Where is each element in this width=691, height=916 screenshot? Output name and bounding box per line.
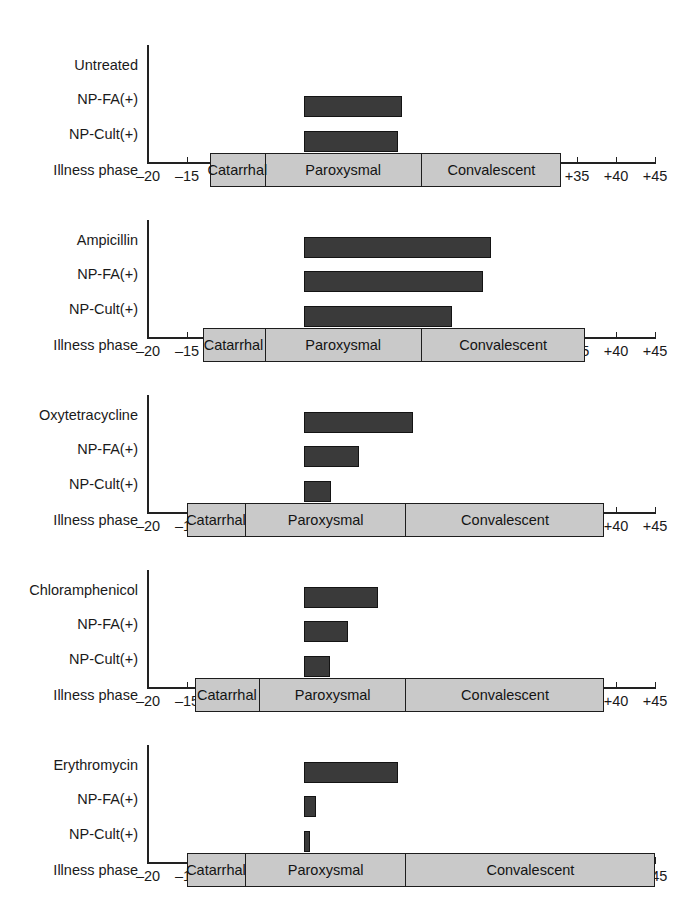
illness-phase-segment-catarrhal: Catarrhal <box>195 679 260 711</box>
x-axis-tick <box>616 682 617 687</box>
x-axis-tick <box>148 157 149 162</box>
x-axis-tick <box>148 682 149 687</box>
x-axis-tick-label: +40 <box>596 343 636 359</box>
x-axis-tick <box>148 332 149 337</box>
x-axis-tick <box>655 507 656 512</box>
illness-phase-segment-label: Paroxysmal <box>288 512 364 528</box>
y-axis-line <box>147 220 149 339</box>
row-label-treatment: Ampicillin <box>0 233 138 247</box>
illness-phase-bar: CatarrhalParoxysmalConvalescent <box>187 853 655 887</box>
illness-phase-segment-label: Paroxysmal <box>288 862 364 878</box>
row-label-np-fa: NP-FA(+) <box>0 442 138 456</box>
data-bar <box>304 237 491 258</box>
illness-phase-segment-label: Catarrhal <box>208 162 268 178</box>
x-axis-tick-label: +45 <box>635 693 675 709</box>
illness-phase-segment-paroxysmal: Paroxysmal <box>265 329 421 361</box>
x-axis-tick <box>616 507 617 512</box>
x-axis-tick <box>187 682 188 687</box>
row-label-np-fa: NP-FA(+) <box>0 792 138 806</box>
x-axis-tick <box>655 157 656 162</box>
row-label-np-fa: NP-FA(+) <box>0 617 138 631</box>
x-axis-tick <box>148 857 149 862</box>
row-label-illness-phase: Illness phase <box>0 513 138 527</box>
row-label-treatment: Erythromycin <box>0 758 138 772</box>
illness-phase-segment-catarrhal: Catarrhal <box>187 854 246 886</box>
chart-panel-untreated: –20–15–10–50+5+10+15+20+25+30+35+40+45Un… <box>0 26 691 201</box>
x-axis-tick-label: +45 <box>635 518 675 534</box>
row-label-illness-phase: Illness phase <box>0 163 138 177</box>
illness-phase-segment-label: Convalescent <box>461 687 549 703</box>
row-label-illness-phase: Illness phase <box>0 688 138 702</box>
row-label-np-cult: NP-Cult(+) <box>0 302 138 316</box>
x-axis-tick-label: +45 <box>635 168 675 184</box>
x-axis-tick-label: +45 <box>635 343 675 359</box>
illness-phase-segment-label: Paroxysmal <box>295 687 371 703</box>
x-axis-tick-label: –15 <box>167 343 207 359</box>
x-axis-tick <box>148 507 149 512</box>
x-axis-tick-label: +35 <box>557 168 597 184</box>
row-label-illness-phase: Illness phase <box>0 338 138 352</box>
illness-phase-segment-convalescent: Convalescent <box>421 329 585 361</box>
data-bar <box>304 412 413 433</box>
x-axis-tick <box>655 332 656 337</box>
chart-panel-erythromycin: –20–15–10–50+5+10+15+20+25+30+35+40+45Er… <box>0 726 691 901</box>
x-axis-tick <box>187 332 188 337</box>
illness-phase-segment-label: Convalescent <box>447 162 535 178</box>
row-label-np-cult: NP-Cult(+) <box>0 652 138 666</box>
illness-phase-segment-convalescent: Convalescent <box>405 854 655 886</box>
illness-phase-segment-label: Paroxysmal <box>305 337 381 353</box>
illness-phase-bar: CatarrhalParoxysmalConvalescent <box>210 153 561 187</box>
data-bar <box>304 831 310 852</box>
row-label-np-cult: NP-Cult(+) <box>0 477 138 491</box>
illness-phase-segment-catarrhal: Catarrhal <box>210 154 265 186</box>
x-axis-tick <box>577 157 578 162</box>
figure-root: –20–15–10–50+5+10+15+20+25+30+35+40+45Un… <box>0 0 691 916</box>
data-bar <box>304 796 316 817</box>
row-label-treatment: Untreated <box>0 58 138 72</box>
row-label-np-fa: NP-FA(+) <box>0 92 138 106</box>
data-bar <box>304 656 330 677</box>
illness-phase-segment-paroxysmal: Paroxysmal <box>259 679 405 711</box>
chart-panel-ampicillin: –20–15–10–50+5+10+15+20+25+30+35+40+45Am… <box>0 201 691 376</box>
x-axis-tick-label: –15 <box>167 168 207 184</box>
data-bar <box>304 271 483 292</box>
illness-phase-segment-convalescent: Convalescent <box>421 154 561 186</box>
illness-phase-bar: CatarrhalParoxysmalConvalescent <box>203 328 585 362</box>
y-axis-line <box>147 745 149 864</box>
illness-phase-segment-paroxysmal: Paroxysmal <box>245 504 405 536</box>
row-label-illness-phase: Illness phase <box>0 863 138 877</box>
illness-phase-segment-catarrhal: Catarrhal <box>202 329 264 361</box>
data-bar <box>304 481 331 502</box>
illness-phase-bar: CatarrhalParoxysmalConvalescent <box>187 503 604 537</box>
x-axis-tick <box>187 157 188 162</box>
chart-panel-chloramphenicol: –20–15–10–50+5+10+15+20+25+30+35+40+45Ch… <box>0 551 691 726</box>
y-axis-line <box>147 45 149 164</box>
data-bar <box>304 762 398 783</box>
data-bar <box>304 131 398 152</box>
data-bar <box>304 621 348 642</box>
illness-phase-segment-label: Catarrhal <box>186 862 246 878</box>
row-label-treatment: Chloramphenicol <box>0 583 138 597</box>
illness-phase-segment-label: Catarrhal <box>204 337 264 353</box>
illness-phase-segment-paroxysmal: Paroxysmal <box>245 854 405 886</box>
illness-phase-segment-label: Catarrhal <box>197 687 257 703</box>
illness-phase-segment-convalescent: Convalescent <box>405 679 604 711</box>
illness-phase-segment-paroxysmal: Paroxysmal <box>265 154 421 186</box>
illness-phase-segment-label: Convalescent <box>486 862 574 878</box>
chart-panel-oxytetracycline: –20–15–10–50+5+10+15+20+25+30+35+40+45Ox… <box>0 376 691 551</box>
data-bar <box>304 306 452 327</box>
illness-phase-segment-convalescent: Convalescent <box>405 504 604 536</box>
data-bar <box>304 587 378 608</box>
row-label-np-cult: NP-Cult(+) <box>0 127 138 141</box>
y-axis-line <box>147 395 149 514</box>
illness-phase-segment-label: Paroxysmal <box>305 162 381 178</box>
row-label-np-fa: NP-FA(+) <box>0 267 138 281</box>
data-bar <box>304 96 402 117</box>
x-axis-tick <box>616 157 617 162</box>
illness-phase-segment-label: Catarrhal <box>186 512 246 528</box>
data-bar <box>304 446 359 467</box>
x-axis-tick-label: +40 <box>596 168 636 184</box>
x-axis-tick <box>655 682 656 687</box>
illness-phase-bar: CatarrhalParoxysmalConvalescent <box>195 678 605 712</box>
illness-phase-segment-label: Convalescent <box>459 337 547 353</box>
